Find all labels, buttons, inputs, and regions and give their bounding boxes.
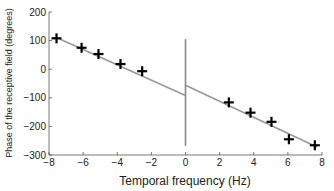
phase-vs-frequency-chart: −300−200−1000100200−8−6−4−202468 Tempora… [0, 0, 334, 191]
x-tick-label: −2 [146, 157, 158, 168]
data-point-marker [77, 43, 87, 53]
x-tick-label: 6 [285, 157, 291, 168]
x-tick-label: 4 [251, 157, 257, 168]
data-point-marker [266, 117, 276, 127]
data-point-marker [246, 108, 256, 118]
x-tick-label: −4 [112, 157, 124, 168]
x-tick-label: 8 [319, 157, 325, 168]
x-axis-label: Temporal frequency (Hz) [119, 174, 250, 188]
data-point-marker [52, 33, 62, 43]
y-tick-label: 200 [29, 7, 46, 18]
axes: −300−200−1000100200−8−6−4−202468 [23, 7, 325, 169]
x-tick-label: 0 [183, 157, 189, 168]
y-tick-label: 100 [29, 35, 46, 46]
x-tick-label: −8 [43, 157, 55, 168]
y-tick-label: −100 [23, 92, 46, 103]
y-axis-label: Phase of the receptive field (degrees) [4, 8, 14, 158]
data-point-marker [224, 97, 234, 107]
x-tick-label: 2 [217, 157, 223, 168]
y-tick-label: −200 [23, 121, 46, 132]
x-tick-label: −6 [77, 157, 89, 168]
data-point-marker [310, 140, 320, 150]
y-tick-label: 0 [40, 64, 46, 75]
